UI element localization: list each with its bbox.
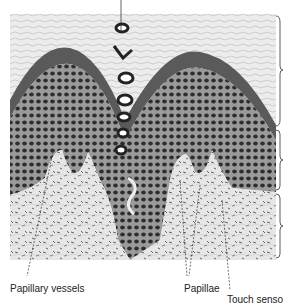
label-papillae: Papillae	[184, 283, 220, 294]
skin-cross-section-illustration	[0, 0, 283, 306]
skin-diagram: Papillary vessels Papillae Touch sensor	[0, 0, 283, 306]
label-papillary-vessels: Papillary vessels	[10, 283, 84, 294]
label-touch-sensor: Touch sensor	[227, 294, 283, 305]
layer-brackets	[276, 16, 283, 258]
